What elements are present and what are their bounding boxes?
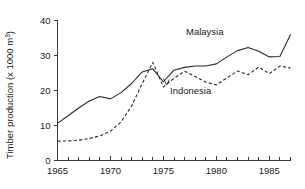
annotation-leader-lines [164, 79, 170, 86]
indonesia-leader-icon [164, 79, 170, 86]
x-tick-label: 1980 [206, 165, 227, 176]
series-line-malaysia [58, 35, 291, 124]
y-axis-title-main: Timber production (x 1000 m [4, 38, 15, 159]
y-axis-tick-labels: 010203040 [40, 15, 51, 166]
y-tick-label: 40 [40, 15, 51, 26]
chart-plot-area: 010203040 19651970197519801985 Timber pr… [0, 0, 305, 189]
series-annotation-indonesia: Indonesia [170, 85, 212, 96]
timber-production-chart: 010203040 19651970197519801985 Timber pr… [0, 0, 305, 189]
x-axis-ticks [58, 156, 291, 161]
y-tick-label: 30 [40, 50, 51, 61]
x-tick-label: 1965 [47, 165, 68, 176]
y-axis-title: Timber production (x 1000 m3) [4, 31, 16, 159]
y-axis-title-tail: ) [4, 31, 15, 34]
series-line-indonesia [58, 63, 291, 142]
x-tick-label: 1975 [153, 165, 174, 176]
x-axis-tick-labels: 19651970197519801985 [47, 165, 280, 176]
series-annotation-malaysia: Malaysia [186, 26, 224, 37]
y-tick-label: 20 [40, 85, 51, 96]
x-tick-label: 1970 [100, 165, 121, 176]
y-tick-label: 10 [40, 120, 51, 131]
y-axis-ticks [54, 21, 58, 161]
x-tick-label: 1985 [259, 165, 280, 176]
